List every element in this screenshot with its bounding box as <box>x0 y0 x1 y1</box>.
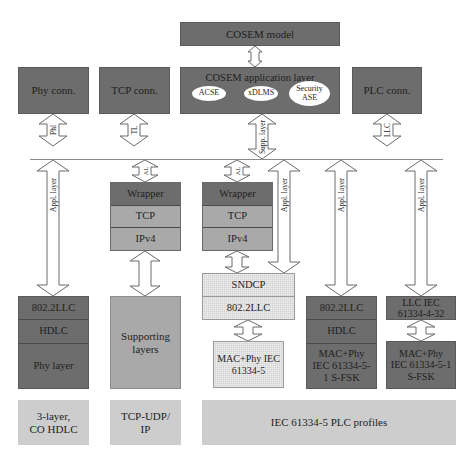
cosem-model-label: COSEM model <box>226 28 294 41</box>
al-tcp-arrow-label: AL <box>142 167 149 176</box>
hdlc-layer: HDLC <box>307 320 376 344</box>
tcp-conn-box: TCP conn. <box>99 67 170 114</box>
mac-phy-iec-box: MAC+Phy IEC 61334-5 <box>213 341 284 388</box>
llc-layer: 802.2LLC <box>203 297 294 319</box>
sndcp-stack: SNDCP 802.2LLC <box>202 273 295 320</box>
llc-432-box: LLC IEC 61334-4-32 <box>386 296 456 320</box>
tcp-wrapper-stack: Wrapper TCP IPv4 <box>110 182 181 251</box>
sfsk-hdlc-stack: 802.2LLC HDLC MAC+Phy IEC 61334-5-1 S-FS… <box>306 296 377 389</box>
tcp-conn-label: TCP conn. <box>111 84 158 97</box>
llc-arrow-label: LLC <box>383 123 392 137</box>
profile-three-layer: 3-layer, CO HDLC <box>18 400 89 445</box>
profile-tcp-udp: TCP-UDP/ IP <box>110 400 181 445</box>
sndcp-layer: SNDCP <box>203 274 294 297</box>
llc-layer: 802.2LLC <box>307 297 376 320</box>
appl-layer-label-1: Appl. layer <box>49 178 58 212</box>
dlms-cosem-protocol-diagram: COSEM model Phy conn. TCP conn. COSEM ap… <box>0 0 473 461</box>
xdlms-oval: xDLMS <box>244 86 278 101</box>
mac-phy-sfsk-box: MAC+Phy IEC 61334-5-1 S-FSK <box>386 341 456 389</box>
supporting-layers-box: Supporting layers <box>110 296 181 389</box>
profile-plc: IEC 61334-5 PLC profiles <box>202 400 456 445</box>
wrapper-layer: Wrapper <box>203 183 272 206</box>
phy-layer: Phy layer <box>19 344 88 388</box>
wrapper-layer: Wrapper <box>111 183 180 206</box>
appl-layer-label-4: Appl. layer <box>417 178 426 212</box>
tcp-layer: TCP <box>111 206 180 229</box>
three-layer-stack: 802.2LLC HDLC Phy layer <box>18 296 89 389</box>
ipv4-layer: IPv4 <box>203 228 272 250</box>
ipv4-layer: IPv4 <box>111 228 180 250</box>
acse-oval: ACSE <box>192 86 226 101</box>
ip-supporting-arrow <box>130 251 160 296</box>
appl-layer-label-2: Appl. layer <box>280 178 289 212</box>
llc-layer: 802.2LLC <box>19 297 88 320</box>
mac-phy-layer: MAC+Phy IEC 61334-5-1 S-FSK <box>307 344 376 388</box>
gprs-wrapper-stack: Wrapper TCP IPv4 <box>202 182 273 251</box>
cosem-model-box: COSEM model <box>180 22 340 46</box>
supp-layer-arrow-label: Supp. layer <box>258 120 267 154</box>
phy-conn-box: Phy conn. <box>18 67 89 114</box>
model-app-arrow <box>248 46 262 67</box>
phl-arrow-label: Phl <box>49 125 58 135</box>
al-gprs-arrow-label: AL <box>234 167 241 176</box>
security-ase-oval: Security ASE <box>289 81 330 106</box>
llc432-mac-arrow <box>407 320 435 341</box>
ip-sndcp-arrow <box>225 251 249 273</box>
hdlc-layer: HDLC <box>19 320 88 344</box>
phy-conn-label: Phy conn. <box>32 84 76 97</box>
tcp-layer: TCP <box>203 206 272 229</box>
tl-arrow-label: TL <box>130 125 139 134</box>
appl-layer-label-3: Appl. layer <box>337 178 346 212</box>
plc-conn-box: PLC conn. <box>352 67 422 114</box>
separator-line <box>30 159 443 160</box>
plc-conn-label: PLC conn. <box>363 84 410 97</box>
llc-mac-arrow <box>234 320 262 341</box>
